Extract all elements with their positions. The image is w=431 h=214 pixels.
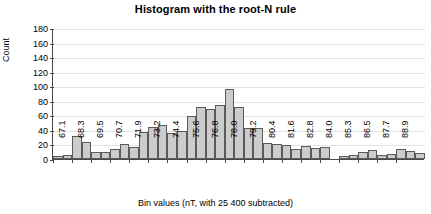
x-tick-mark xyxy=(225,160,226,163)
histogram-bar xyxy=(396,149,406,159)
y-gridline xyxy=(53,73,425,74)
x-tick-mark xyxy=(244,160,245,163)
y-tick-mark xyxy=(50,73,54,74)
y-tick-label: 160 xyxy=(8,39,48,49)
x-tick-label: 71.9 xyxy=(133,120,143,138)
y-tick-label: 60 xyxy=(8,111,48,121)
histogram-bar xyxy=(311,148,321,159)
x-tick-label: 79.2 xyxy=(248,120,258,138)
histogram-bar xyxy=(406,151,416,159)
x-tick-mark xyxy=(72,160,73,163)
y-gridline xyxy=(53,29,425,30)
x-tick-label: 85.3 xyxy=(343,120,353,138)
y-tick-mark xyxy=(50,87,54,88)
histogram-bar xyxy=(91,152,101,159)
y-tick-label: 0 xyxy=(8,155,48,165)
x-tick-label: 76.8 xyxy=(210,120,220,138)
x-tick-mark xyxy=(358,160,359,163)
histogram-bar xyxy=(291,149,301,159)
histogram-bar xyxy=(349,155,359,159)
y-tick-label: 20 xyxy=(8,140,48,150)
histogram-bar xyxy=(339,156,349,159)
x-tick-mark xyxy=(339,160,340,163)
y-tick-mark xyxy=(50,116,54,117)
histogram-bar xyxy=(282,145,292,159)
y-gridline xyxy=(53,87,425,88)
histogram-bar xyxy=(368,150,378,159)
histogram-bar xyxy=(53,156,63,159)
x-tick-label: 67.1 xyxy=(57,120,67,138)
y-tick-label: 100 xyxy=(8,82,48,92)
x-tick-label: 78.0 xyxy=(229,120,239,138)
x-tick-label: 80.4 xyxy=(267,120,277,138)
x-tick-label: 84.0 xyxy=(324,120,334,138)
y-tick-label: 180 xyxy=(8,24,48,34)
y-tick-label: 120 xyxy=(8,68,48,78)
histogram-bar xyxy=(320,147,330,159)
x-tick-mark xyxy=(91,160,92,163)
x-tick-mark xyxy=(320,160,321,163)
x-tick-mark xyxy=(187,160,188,163)
y-tick-label: 80 xyxy=(8,97,48,107)
histogram-bar xyxy=(263,143,273,159)
x-tick-mark xyxy=(129,160,130,163)
histogram-bar xyxy=(110,149,120,159)
x-tick-label: 82.8 xyxy=(305,120,315,138)
x-tick-label: 68.3 xyxy=(76,120,86,138)
histogram-bar xyxy=(129,147,139,159)
histogram-bar xyxy=(120,144,130,159)
histogram-bar xyxy=(358,152,368,159)
histogram-chart: Histogram with the root-N rule Count Bin… xyxy=(0,0,431,214)
histogram-bar xyxy=(101,152,111,159)
y-tick-mark xyxy=(50,58,54,59)
x-tick-mark xyxy=(263,160,264,163)
histogram-bar xyxy=(387,154,397,159)
x-tick-mark xyxy=(282,160,283,163)
y-tick-mark xyxy=(50,131,54,132)
histogram-bar xyxy=(82,142,92,159)
histogram-bar xyxy=(301,146,311,159)
y-tick-mark xyxy=(50,102,54,103)
x-tick-mark xyxy=(110,160,111,163)
x-tick-label: 69.5 xyxy=(95,120,105,138)
histogram-bar xyxy=(377,155,387,159)
x-tick-label: 86.5 xyxy=(362,120,372,138)
x-tick-label: 87.7 xyxy=(381,120,391,138)
plot-area xyxy=(52,29,424,160)
x-axis-label: Bin values (nT, with 25 400 subtracted) xyxy=(0,198,431,208)
y-gridline xyxy=(53,44,425,45)
histogram-bar xyxy=(272,144,282,159)
chart-title: Histogram with the root-N rule xyxy=(0,3,431,15)
x-tick-mark xyxy=(301,160,302,163)
histogram-bar xyxy=(415,153,425,159)
y-gridline xyxy=(53,102,425,103)
x-tick-label: 74.4 xyxy=(171,120,181,138)
histogram-bar xyxy=(72,136,82,159)
y-tick-label: 40 xyxy=(8,126,48,136)
x-tick-label: 73.2 xyxy=(152,120,162,138)
y-gridline xyxy=(53,58,425,59)
x-tick-mark xyxy=(148,160,149,163)
x-tick-mark xyxy=(167,160,168,163)
x-tick-mark xyxy=(206,160,207,163)
histogram-bar xyxy=(63,155,73,159)
x-tick-label: 75.6 xyxy=(191,120,201,138)
y-tick-mark xyxy=(50,44,54,45)
y-tick-label: 140 xyxy=(8,53,48,63)
x-tick-mark xyxy=(377,160,378,163)
x-tick-label: 88.9 xyxy=(400,120,410,138)
x-tick-label: 81.6 xyxy=(286,120,296,138)
x-tick-mark xyxy=(53,160,54,163)
y-tick-mark xyxy=(50,29,54,30)
x-tick-label: 70.7 xyxy=(114,120,124,138)
x-tick-mark xyxy=(396,160,397,163)
y-tick-mark xyxy=(50,145,54,146)
